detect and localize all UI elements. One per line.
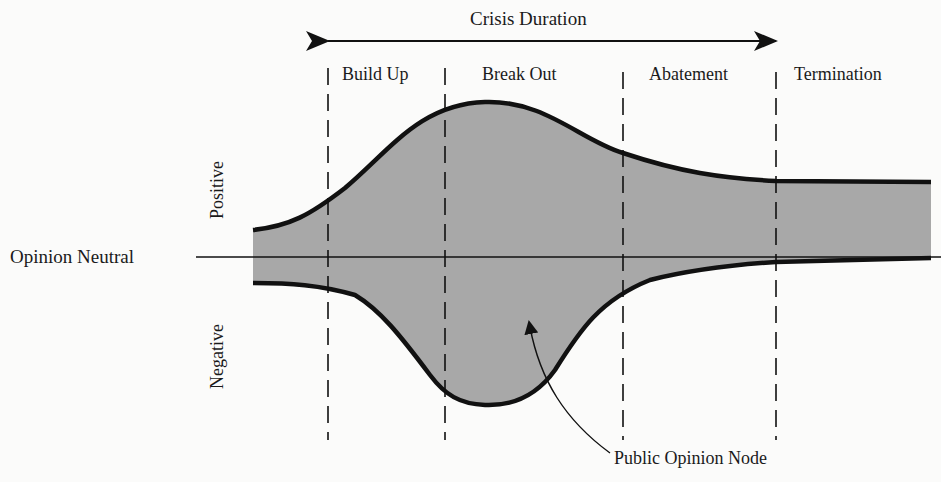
phase-label-abatement: Abatement	[649, 64, 728, 85]
phase-label-break-out: Break Out	[482, 64, 556, 85]
phase-label-build-up: Build Up	[342, 64, 409, 85]
opinion-neutral-label: Opinion Neutral	[10, 246, 134, 268]
public-opinion-node-shape	[253, 102, 931, 405]
negative-axis-label: Negative	[207, 324, 228, 389]
crisis-duration-title: Crisis Duration	[470, 8, 587, 30]
public-opinion-node-label: Public Opinion Node	[614, 448, 767, 469]
positive-axis-label: Positive	[207, 161, 228, 219]
phase-label-termination: Termination	[794, 64, 882, 85]
